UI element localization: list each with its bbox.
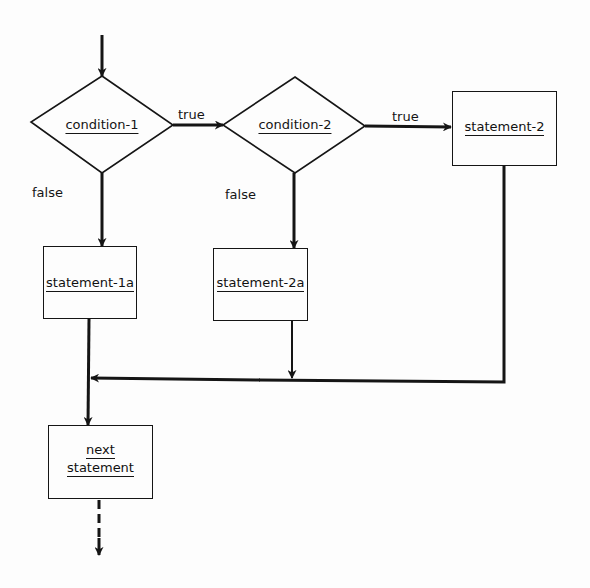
statement-2-text: statement-2 [465,119,545,136]
merge-arrow [91,378,260,380]
condition-1-text: condition-1 [65,117,138,134]
c1-false-label: false [32,185,63,200]
condition-2-text: condition-2 [258,117,331,134]
statement-1a-arrow [88,319,89,425]
statement-1a-text: statement-1a [46,275,134,292]
statement-1a-box: statement-1a [43,246,137,319]
condition-1-label: condition-1 [65,117,138,132]
c2-true-arrow [365,126,451,127]
statement-2-box: statement-2 [452,91,557,166]
c2-false-label: false [225,187,256,202]
statement-2a-text: statement-2a [217,275,305,292]
c2-true-label: true [392,109,419,124]
next-statement-line1: next [86,442,115,459]
next-statement-box: next statement [48,425,153,499]
c1-true-label: true [178,107,205,122]
condition-2-label: condition-2 [258,117,331,132]
statement-2a-box: statement-2a [213,248,308,321]
next-statement-line2: statement [67,460,134,477]
